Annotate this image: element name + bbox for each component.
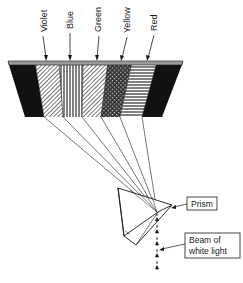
spectrum-labels: Violet Blue Green Yellow Red — [39, 7, 159, 61]
label-violet: Violet — [39, 9, 49, 32]
screen-top-edge — [8, 61, 183, 65]
beam-label-line2: white light — [188, 246, 227, 256]
prism-callout: Prism — [171, 197, 217, 210]
arrow-down-icon — [68, 55, 72, 61]
label-blue: Blue — [65, 11, 75, 29]
beam-arrow-icon — [155, 253, 159, 257]
prism-dispersion-diagram: Violet Blue Green Yellow Red Prism Beam … — [0, 0, 243, 283]
arrow-down-icon — [95, 55, 99, 61]
arrow-down-icon — [44, 55, 48, 61]
beam-label-line1: Beam of — [189, 235, 221, 245]
beam-arrow-icon — [155, 265, 159, 269]
beam-arrow-icon — [155, 241, 159, 245]
beam-callout: Beam of white light — [159, 233, 240, 258]
prism — [118, 188, 172, 245]
arrow-down-icon — [146, 55, 150, 61]
label-yellow: Yellow — [122, 7, 132, 33]
prism-label: Prism — [191, 199, 213, 209]
label-red: Red — [149, 14, 159, 31]
screen — [8, 61, 183, 117]
arrow-down-icon — [120, 55, 124, 61]
arrow-left-icon — [159, 247, 164, 251]
beam-arrow-icon — [155, 229, 159, 233]
label-green: Green — [93, 7, 103, 32]
